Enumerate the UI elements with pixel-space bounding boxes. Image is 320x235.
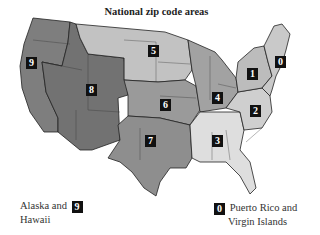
legend-pr-vi: 0 Puerto Rico and Virgin Islands: [212, 201, 297, 228]
zone-8-badge: 8: [86, 84, 97, 96]
legend-pr-line2: Virgin Islands: [212, 216, 287, 227]
zone-2-badge: 2: [250, 105, 261, 117]
pr-vi-badge: 0: [214, 203, 225, 215]
zone-3-badge: 3: [212, 135, 223, 147]
zone-4-badge: 4: [212, 92, 223, 104]
alaska-hawaii-badge: 9: [72, 201, 83, 213]
zone-1-badge: 1: [247, 68, 258, 80]
legend-alaska-hawaii: Alaska and 9 Hawaii: [20, 199, 85, 226]
legend-alaska-line2: Hawaii: [20, 214, 50, 225]
zone-5-badge: 5: [148, 45, 159, 57]
legend-pr-line1: Puerto Rico and: [230, 202, 298, 213]
zone-0-badge: 0: [275, 56, 286, 68]
zone-6-badge: 6: [160, 99, 171, 111]
zone-7-region: [108, 116, 192, 196]
zone-9-badge: 9: [26, 57, 37, 69]
zone-7-badge: 7: [145, 135, 156, 147]
legend-alaska-line1: Alaska and: [20, 200, 67, 211]
